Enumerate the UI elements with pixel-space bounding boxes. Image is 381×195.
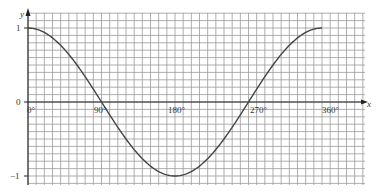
grid-lines: [28, 13, 365, 185]
y-tick-0: 0: [16, 98, 21, 107]
x-tick-360: 360°: [322, 106, 339, 115]
x-tick-0: 0°: [27, 106, 35, 115]
x-tick-90: 90°: [94, 106, 107, 115]
cosine-graph: [0, 0, 381, 195]
y-tick-minus-1: −1: [10, 172, 20, 181]
x-tick-180: 180°: [168, 106, 185, 115]
x-tick-270: 270°: [250, 106, 267, 115]
axes: [24, 8, 368, 185]
y-tick-1: 1: [16, 24, 21, 33]
x-axis-label: x: [367, 100, 371, 109]
y-axis-label: y: [20, 10, 24, 19]
